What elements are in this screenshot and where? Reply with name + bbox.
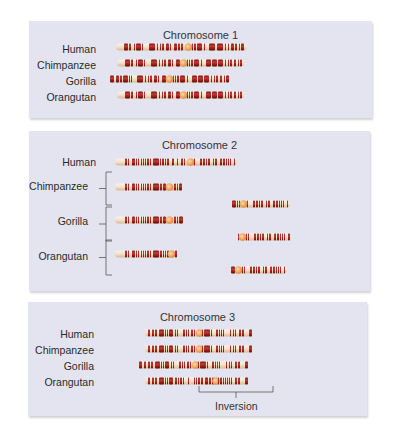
chromosome-band — [235, 330, 236, 337]
chromosome-band — [228, 159, 229, 166]
chromosome-band — [136, 159, 137, 166]
chromosome-band — [172, 159, 174, 166]
chromosome-band — [150, 184, 151, 191]
chromosome-band — [277, 234, 279, 241]
chromosome-band — [230, 346, 231, 353]
chromosome-band — [228, 44, 229, 51]
chromosome-band — [181, 44, 183, 51]
chromosome-band — [180, 76, 185, 83]
chromosome-band — [231, 362, 232, 369]
chromosome-band — [187, 92, 188, 99]
chromosome-band — [238, 362, 240, 369]
chromosome-band — [245, 378, 248, 385]
chromosome-band — [147, 159, 149, 166]
chromosome-band — [228, 92, 229, 99]
chromosome-band — [188, 346, 189, 353]
chromosome-band — [167, 159, 169, 166]
chromosome-band — [145, 217, 146, 224]
centromere — [180, 91, 188, 99]
chromosome-band — [240, 92, 242, 99]
chromosome-band — [249, 346, 252, 353]
chromosome-band — [211, 346, 212, 353]
chromosome-band — [209, 44, 215, 51]
centromere — [240, 200, 248, 208]
chromosome-band — [166, 44, 169, 51]
chromosome-band — [177, 76, 179, 83]
chromosome-band — [172, 92, 173, 99]
chromosome-band — [253, 267, 255, 274]
chromosome-band — [211, 76, 212, 83]
chromosome-band — [226, 159, 227, 166]
chromosome-band — [266, 201, 267, 208]
chromosome-band — [262, 234, 264, 241]
chromosome-band — [183, 346, 185, 353]
chromosome-band — [143, 184, 144, 191]
chromosome-band — [168, 92, 171, 99]
chromosome-band — [155, 346, 157, 353]
chromosome-band — [229, 378, 230, 385]
chromosome-band — [164, 92, 166, 99]
chromosome-band — [274, 234, 276, 241]
chromosome-band — [169, 330, 173, 337]
chromosome-band — [284, 267, 285, 274]
chromosome-band — [186, 330, 187, 337]
chromosome-band — [159, 330, 164, 337]
chromosome-band — [138, 159, 139, 166]
chromosome-band — [125, 92, 130, 99]
chromosome-band — [175, 378, 177, 385]
chromosome-band — [120, 76, 122, 83]
species-bracket — [106, 172, 112, 205]
chromosome-band — [288, 234, 290, 241]
chromosome-band — [228, 60, 229, 67]
chromosome-band — [131, 76, 132, 83]
centromere — [166, 183, 174, 191]
chromosome-band — [224, 76, 225, 83]
chromosome-band — [206, 92, 211, 99]
chromosome-band — [248, 234, 249, 241]
chromosome-band — [267, 234, 268, 241]
chromosome-band — [261, 201, 263, 208]
chromosome-band — [206, 159, 207, 166]
chromosome-band — [246, 234, 247, 241]
centromere — [239, 233, 247, 241]
chromosome-band — [284, 234, 285, 241]
chromosome-band — [144, 60, 145, 67]
chromosome-band — [175, 330, 176, 337]
chromosome-band — [153, 184, 159, 191]
chromosome-band — [145, 184, 146, 191]
chromosome-band — [226, 76, 229, 83]
chromosome-band — [237, 201, 238, 208]
chromosome-band — [215, 159, 217, 166]
chromosome-band — [242, 330, 244, 337]
chromosome-band — [215, 362, 216, 369]
chromosome-band — [223, 159, 225, 166]
centromere — [166, 75, 174, 83]
chromosome-band — [223, 346, 224, 353]
chromosome-band — [191, 92, 193, 99]
chromosome-band — [205, 378, 208, 385]
chromosome-band — [124, 44, 128, 51]
chromosome-band — [254, 234, 256, 241]
chromosome-band — [183, 330, 185, 337]
chromosome-band — [282, 234, 283, 241]
chromosome-band — [189, 60, 190, 67]
chromosome-band — [244, 267, 245, 274]
chromosome-band — [178, 378, 179, 385]
chromosome-band — [204, 330, 210, 337]
chromosome-band — [159, 378, 164, 385]
chromosome-band — [231, 44, 234, 51]
chromosome-band — [177, 330, 178, 337]
chromosome-band — [172, 60, 173, 67]
chromosome-band — [139, 362, 142, 369]
chromosome-band — [220, 76, 222, 83]
chromosome-band — [216, 346, 218, 353]
chromosome-band — [203, 159, 205, 166]
chromosome-band — [242, 346, 244, 353]
chromosome-band — [163, 217, 166, 224]
chromosome-band — [231, 378, 232, 385]
chromosome-band — [164, 60, 166, 67]
chromosome-band — [136, 251, 137, 258]
chromosome-band — [216, 76, 218, 83]
centromere — [187, 158, 195, 166]
chromosome-band — [258, 267, 260, 274]
